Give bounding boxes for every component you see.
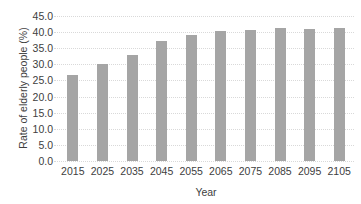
bar-2025 [97,64,108,161]
x-axis-tick-labels: 2015202520352045205520652075208520952105 [0,165,361,179]
y-axis-tick-labels: 0.05.010.015.020.025.030.035.040.045.0 [0,16,53,161]
gridline [54,16,354,17]
bar-2095 [304,29,315,161]
x-tick-label: 2075 [239,165,262,177]
x-tick-label: 2045 [150,165,173,177]
bar-2035 [127,55,138,161]
x-tick-label: 2095 [298,165,321,177]
y-tick-label: 40.0 [0,26,53,38]
bar-2065 [215,31,226,161]
bar-2055 [186,35,197,161]
x-tick-label: 2025 [91,165,114,177]
bar-2075 [245,30,256,161]
x-axis-title: Year [195,186,216,198]
y-tick-label: 45.0 [0,10,53,22]
y-tick-label: 30.0 [0,58,53,70]
bar-2015 [67,75,78,161]
x-tick-label: 2085 [268,165,291,177]
y-tick-label: 20.0 [0,91,53,103]
y-tick-label: 25.0 [0,74,53,86]
y-tick-label: 10.0 [0,123,53,135]
y-tick-label: 5.0 [0,139,53,151]
y-tick-label: 35.0 [0,42,53,54]
x-tick-label: 2105 [328,165,351,177]
bar-2105 [334,28,345,161]
gridline [54,161,354,162]
bar-2045 [156,41,167,162]
plot-area [58,16,354,161]
elderly-rate-bar-chart: Rate of elderly people (%) 0.05.010.015.… [0,0,361,204]
x-tick-label: 2055 [180,165,203,177]
x-tick-label: 2065 [209,165,232,177]
bar-2085 [275,28,286,161]
y-tick-label: 15.0 [0,107,53,119]
x-tick-label: 2035 [120,165,143,177]
x-tick-label: 2015 [61,165,84,177]
